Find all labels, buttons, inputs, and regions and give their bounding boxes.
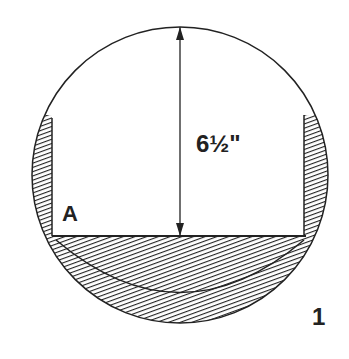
figure-number: 1 xyxy=(312,303,325,331)
region-label: A xyxy=(62,201,78,227)
dimension-label: 6½" xyxy=(196,130,241,158)
circle-cut-diagram: 6½" A 1 xyxy=(0,0,349,359)
diagram-drawing xyxy=(0,0,349,359)
